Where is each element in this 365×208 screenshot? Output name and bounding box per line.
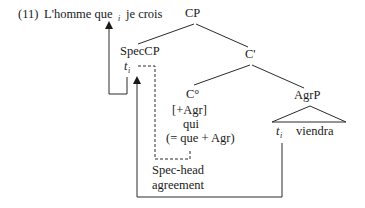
syntax-tree-diagram: (11) L'homme que i je crois CP SpecCP C'… [0, 0, 365, 208]
annotation-line1: Spec-head [152, 163, 205, 177]
chead-feature-agr: [+Agr] [172, 103, 207, 117]
speccp-trace-index: i [128, 66, 130, 75]
chead-feature-qui: qui [183, 117, 200, 131]
branch-cbar-chead [194, 65, 250, 85]
node-chead: C° [186, 87, 199, 101]
example-sentence-end: je crois [125, 7, 163, 21]
node-speccp: SpecCP [120, 44, 160, 58]
node-cbar: C' [245, 47, 256, 61]
branch-cbar-agrp [252, 65, 304, 88]
chead-feature-gloss: (= que + Agr) [166, 131, 235, 145]
que-index: i [118, 14, 120, 23]
agrp-trace-index: i [280, 131, 282, 140]
branch-cp-cbar [196, 24, 248, 47]
annotation-line2: agreement [152, 178, 205, 192]
node-agrp: AgrP [294, 88, 320, 102]
node-cp: CP [185, 6, 200, 20]
agrp-verb: viendra [296, 124, 334, 138]
agrp-triangle [272, 106, 346, 122]
branch-cp-speccp [138, 24, 194, 44]
example-sentence-start: L'homme que [44, 7, 113, 21]
example-number: (11) [18, 7, 38, 21]
